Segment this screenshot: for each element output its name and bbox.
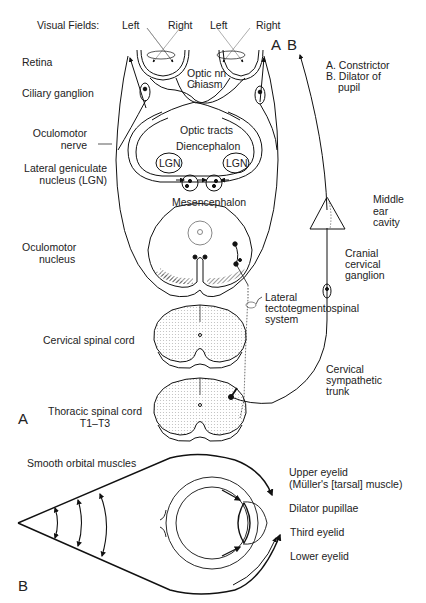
path-b-label: B bbox=[287, 39, 297, 51]
ciliary-ganglion-left bbox=[140, 83, 150, 101]
lgn-label-2: nucleus (LGN) bbox=[10, 174, 107, 186]
middle-ear-label-3: cavity bbox=[373, 216, 400, 228]
upper-eyelid-label-1: Upper eyelid bbox=[289, 466, 348, 478]
chiasm-label: Chiasm bbox=[187, 78, 223, 90]
diencephalon-label: Diencephalon bbox=[176, 140, 240, 152]
middle-ear-cavity-triangle bbox=[310, 197, 345, 229]
eyeball bbox=[160, 477, 267, 569]
visual-fields-label: Visual Fields: bbox=[37, 19, 99, 31]
smooth-orbital-muscles-label: Smooth orbital muscles bbox=[27, 457, 136, 469]
cervical-sympathetic-label-3: trunk bbox=[326, 385, 349, 397]
optic-tracts-label: Optic tracts bbox=[180, 124, 233, 136]
field-right-label: Right bbox=[168, 19, 193, 31]
mesencephalon-label: Mesencephalon bbox=[172, 196, 246, 208]
lateral-tts-label-3: system bbox=[265, 313, 298, 325]
panel-a-label: A bbox=[18, 413, 28, 425]
ciliary-ganglion-label: Ciliary ganglion bbox=[22, 87, 94, 99]
thoracic-spinal-cord bbox=[154, 378, 246, 441]
third-eyelid-label: Third eyelid bbox=[290, 526, 344, 538]
legend-b-2: pupil bbox=[338, 81, 360, 93]
dilator-pupillae-label: Dilator pupillae bbox=[289, 502, 358, 514]
thoracic-spinal-cord-label-1: Thoracic spinal cord bbox=[45, 405, 145, 417]
path-a-label: A bbox=[271, 39, 281, 51]
field-left-label: Left bbox=[122, 19, 140, 31]
sympathetic-path bbox=[231, 55, 345, 403]
lower-eyelid-label: Lower eyelid bbox=[290, 550, 349, 562]
lgn-left-label: LGN bbox=[159, 157, 181, 169]
orbit-diagram bbox=[18, 454, 280, 594]
cervical-spinal-cord-label: Cervical spinal cord bbox=[43, 334, 135, 346]
retina-label: Retina bbox=[22, 56, 52, 68]
oculomotor-nerve-label-2: nerve bbox=[30, 139, 87, 151]
middle-ear-label-1: Middle bbox=[373, 193, 404, 205]
lgn-label-1: Lateral geniculate bbox=[10, 162, 107, 174]
cranial-cervical-label-3: ganglion bbox=[345, 269, 385, 281]
thoracic-spinal-cord-label-2: T1–T3 bbox=[45, 417, 145, 429]
oculomotor-nucleus-label-2: nucleus bbox=[39, 253, 75, 265]
field-right-label-2: Right bbox=[256, 19, 281, 31]
cervical-spinal-cord bbox=[154, 305, 246, 368]
field-left-label-2: Left bbox=[210, 19, 228, 31]
lgn-right-label: LGN bbox=[226, 157, 248, 169]
oculomotor-nerve-label-1: Oculomotor bbox=[30, 127, 87, 139]
left-eye bbox=[137, 28, 189, 80]
panel-b-label: B bbox=[18, 580, 28, 592]
upper-eyelid-label-2: (Müller's [tarsal] muscle) bbox=[289, 478, 402, 490]
oculomotor-nucleus-label-1: Oculomotor bbox=[22, 241, 76, 253]
mesencephalon bbox=[148, 204, 252, 288]
